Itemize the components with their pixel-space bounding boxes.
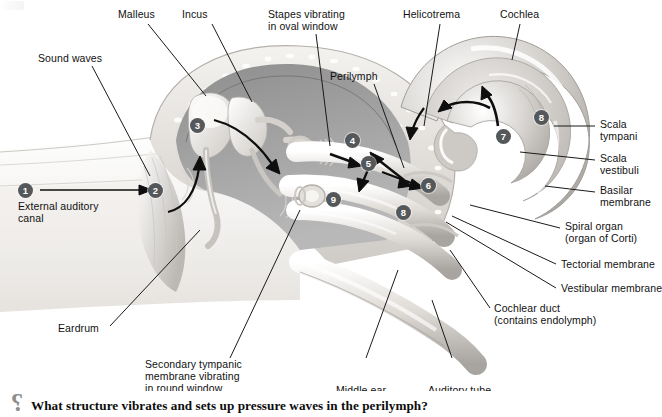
label-basilar-membrane: Basilar membrane bbox=[600, 184, 651, 208]
badge-6: 6 bbox=[421, 178, 436, 193]
label-scala-vestibuli: Scala vestibuli bbox=[600, 152, 639, 176]
label-spiral-organ: Spiral organ (organ of Corti) bbox=[565, 220, 637, 244]
label-incus: Incus bbox=[182, 8, 208, 20]
review-question-text: What structure vibrates and sets up pres… bbox=[31, 398, 428, 414]
label-malleus: Malleus bbox=[118, 8, 155, 20]
badge-5: 5 bbox=[361, 156, 376, 171]
label-cochlear-duct: Cochlear duct (contains endolymph) bbox=[494, 302, 596, 326]
label-perilymph: Perilymph bbox=[330, 70, 378, 82]
label-external-auditory-canal: External auditory canal bbox=[18, 200, 99, 224]
label-cochlea: Cochlea bbox=[500, 8, 539, 20]
label-secondary-tympanic-membrane: Secondary tympanic membrane vibrating in… bbox=[145, 358, 242, 395]
label-vestibular-membrane: Vestibular membrane bbox=[561, 282, 662, 294]
label-helicotrema: Helicotrema bbox=[403, 8, 460, 20]
badge-2: 2 bbox=[148, 183, 163, 198]
question-mark-icon: ? bbox=[4, 391, 30, 415]
badge-4: 4 bbox=[345, 133, 360, 148]
badge-3: 3 bbox=[190, 118, 205, 133]
badge-9: 9 bbox=[326, 192, 341, 207]
badge-1: 1 bbox=[18, 183, 33, 198]
badge-8-cochlear-duct: 8 bbox=[396, 205, 411, 220]
label-tectorial-membrane: Tectorial membrane bbox=[561, 258, 655, 270]
label-stapes-oval-window: Stapes vibrating in oval window bbox=[268, 8, 345, 32]
badge-8-scala-tympani: 8 bbox=[534, 110, 549, 125]
review-question-bar: ? What structure vibrates and sets up pr… bbox=[0, 391, 647, 417]
badge-7: 7 bbox=[496, 129, 511, 144]
label-eardrum: Eardrum bbox=[58, 322, 99, 334]
label-sound-waves: Sound waves bbox=[38, 52, 102, 64]
label-scala-tympani: Scala tympani bbox=[600, 118, 637, 142]
